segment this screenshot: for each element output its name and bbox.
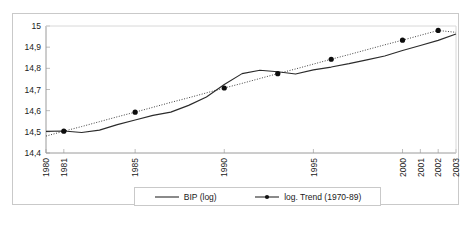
y-axis-tick-label: 14,9 (24, 42, 41, 52)
x-axis-tick-label: 1981 (59, 158, 69, 177)
x-axis-tick-label: 1985 (130, 158, 140, 177)
series-marker-trend (133, 110, 138, 115)
x-axis-tick-label: 2003 (451, 158, 460, 177)
chart-frame: 14,414,514,614,714,814,915 1980198119851… (12, 13, 459, 205)
legend-label-bip: BIP (log) (184, 192, 217, 202)
series-line-trend (46, 30, 456, 136)
legend-swatch-dotted-marker-line (254, 192, 280, 202)
chart-legend: BIP (log) log. Trend (1970-89) (134, 187, 381, 206)
legend-item-bip: BIP (log) (154, 192, 217, 202)
y-axis-tick-label: 14,7 (24, 85, 41, 95)
chart-axes (46, 26, 456, 153)
chart-series (46, 28, 456, 136)
x-axis-tick-label: 2001 (416, 158, 426, 177)
x-axis-tick-label: 1980 (41, 158, 51, 177)
y-axis-tick-label: 14,5 (24, 127, 41, 137)
legend-swatch-solid-line (154, 192, 180, 202)
series-marker-trend (275, 71, 280, 76)
x-axis-tick-label: 2000 (398, 158, 408, 177)
series-line-bip (46, 34, 456, 132)
y-axis-tick-label: 14,4 (24, 148, 41, 158)
x-axis-tick-label: 1990 (219, 158, 229, 177)
series-marker-trend (400, 38, 405, 43)
series-marker-trend (61, 129, 66, 134)
y-axis-tick-label: 14,6 (24, 106, 41, 116)
legend-item-trend: log. Trend (1970-89) (254, 192, 361, 202)
series-marker-trend (436, 28, 441, 33)
chart-plot: 14,414,514,614,714,814,915 1980198119851… (13, 14, 460, 206)
series-marker-trend (329, 57, 334, 62)
x-axis-tick-label: 1995 (309, 158, 319, 177)
series-marker-trend (222, 85, 227, 90)
y-axis-tick-label: 14,8 (24, 63, 41, 73)
y-axis-tick-label: 15 (32, 21, 42, 31)
x-axis-tick-label: 2002 (433, 158, 443, 177)
legend-label-trend: log. Trend (1970-89) (284, 192, 361, 202)
